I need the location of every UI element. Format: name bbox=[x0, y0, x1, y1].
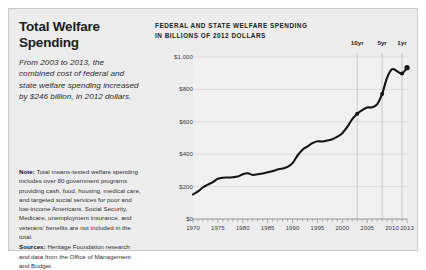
left-column: Total Welfare Spending From 2003 to 2013… bbox=[19, 19, 141, 243]
marker-label-10yr: 10yr bbox=[351, 39, 364, 46]
footnote-note-label: Note: bbox=[19, 168, 35, 175]
title-line-1: Total Welfare bbox=[19, 19, 141, 35]
x-axis-label: 1985 bbox=[261, 225, 275, 231]
y-axis-label: $1,000 bbox=[174, 54, 193, 60]
marker-label-1yr: 1yr bbox=[397, 39, 406, 46]
line-chart-svg bbox=[155, 51, 411, 243]
title-line-2: Spending bbox=[19, 35, 141, 51]
data-point-end bbox=[404, 65, 409, 70]
y-axis-label: $800 bbox=[179, 86, 193, 92]
x-axis-label: 2013 bbox=[400, 225, 414, 231]
chart-title-line-1: FEDERAL AND STATE WELFARE SPENDING bbox=[155, 21, 411, 31]
y-axis-label: $400 bbox=[179, 151, 193, 157]
subheadline: From 2003 to 2013, the combined cost of … bbox=[19, 57, 141, 103]
y-axis-label: $0 bbox=[186, 216, 193, 222]
plot-background bbox=[193, 57, 407, 219]
x-axis-label: 1995 bbox=[311, 225, 325, 231]
data-point-5yr bbox=[380, 92, 384, 96]
footnote-note: Note: Total means-tested welfare spendin… bbox=[19, 167, 141, 241]
plot-area: $0$200$400$600$800$1,0001970197519801985… bbox=[155, 51, 411, 243]
footnote-note-body: Total means-tested welfare spending incl… bbox=[19, 168, 141, 240]
footnote-sources: Sources: Heritage Foundation research an… bbox=[19, 242, 141, 270]
chart-column: FEDERAL AND STATE WELFARE SPENDING IN BI… bbox=[155, 21, 411, 243]
infographic-panel: Total Welfare Spending From 2003 to 2013… bbox=[8, 8, 418, 251]
footnote-sources-label: Sources: bbox=[19, 243, 46, 250]
x-axis-label: 2000 bbox=[335, 225, 349, 231]
y-axis-label: $200 bbox=[179, 184, 193, 190]
page-title: Total Welfare Spending bbox=[19, 19, 141, 51]
x-axis-label: 1970 bbox=[186, 225, 200, 231]
x-axis-label: 2005 bbox=[360, 225, 374, 231]
y-axis-label: $600 bbox=[179, 119, 193, 125]
data-point-1yr bbox=[400, 72, 404, 76]
x-axis-label: 1980 bbox=[236, 225, 250, 231]
x-axis-label: 2010 bbox=[385, 225, 399, 231]
x-axis-label: 1990 bbox=[286, 225, 300, 231]
chart-title: FEDERAL AND STATE WELFARE SPENDING IN BI… bbox=[155, 21, 411, 40]
footnote-block: Note: Total means-tested welfare spendin… bbox=[19, 167, 141, 270]
marker-label-5yr: 5yr bbox=[377, 39, 386, 46]
chart-title-line-2: IN BILLIONS OF 2012 DOLLARS bbox=[155, 31, 411, 41]
data-point-10yr bbox=[355, 112, 359, 116]
x-axis-label: 1975 bbox=[211, 225, 225, 231]
